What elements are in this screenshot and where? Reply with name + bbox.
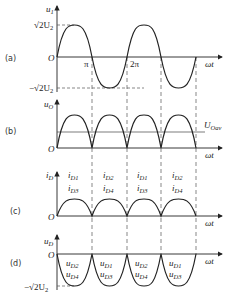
trough-label-d: −√2U2 <box>24 282 48 293</box>
y-axis-label-d: uD <box>44 236 54 247</box>
panel-c-diode-current: (c) iD O ωt iD1 iD3 iD2 iD4 iD1 iD3 iD2 … <box>10 170 222 228</box>
svg-text:uD3: uD3 <box>169 269 182 280</box>
svg-text:iD4: iD4 <box>103 183 114 194</box>
dashed-guide-lines <box>92 57 196 254</box>
panel-d-diode-voltage: (d) uD O −√2U2 ωt uD2 uD4 uD1 uD3 uD2 uD… <box>10 235 222 293</box>
svg-text:uD2: uD2 <box>66 258 79 269</box>
bridge-rectifier-waveforms: (a) u1 √2U2 −√2U2 O π 2π ωt (b) uO O UOa… <box>0 0 226 303</box>
svg-text:uD2: uD2 <box>135 258 148 269</box>
y-axis-label-b: uO <box>44 99 54 110</box>
peak-label-a: √2U2 <box>34 20 53 31</box>
tick-pi: π <box>84 59 89 69</box>
diode-voltage-wave <box>57 254 196 286</box>
svg-text:uD1: uD1 <box>100 258 112 269</box>
svg-text:iD1: iD1 <box>68 170 78 181</box>
average-label: UOav <box>204 120 221 131</box>
svg-text:uD3: uD3 <box>100 269 113 280</box>
svg-text:iD2: iD2 <box>103 170 114 181</box>
x-axis-label-c: ωt <box>205 218 214 228</box>
sine-wave <box>57 25 196 88</box>
x-axis-label-a: ωt <box>205 59 214 69</box>
svg-text:uD4: uD4 <box>135 269 148 280</box>
origin-label-c: O <box>48 212 55 222</box>
svg-text:iD2: iD2 <box>172 170 183 181</box>
tick-2pi: 2π <box>130 59 140 69</box>
panel-label-c: (c) <box>10 207 21 216</box>
current-wave <box>57 199 196 216</box>
trough-label-a: −√2U2 <box>29 83 53 94</box>
panel-label-b: (b) <box>5 127 16 136</box>
rectified-wave <box>57 115 196 148</box>
panel-label-d: (d) <box>10 259 21 268</box>
origin-label-b: O <box>48 144 55 154</box>
origin-label-a: O <box>48 53 55 63</box>
svg-text:iD3: iD3 <box>68 183 79 194</box>
svg-text:uD4: uD4 <box>66 269 79 280</box>
panel-a-input-voltage: (a) u1 √2U2 −√2U2 O π 2π ωt <box>5 4 222 94</box>
panel-b-output-voltage: (b) uO O UOav ωt <box>5 99 222 160</box>
origin-label-d: O <box>48 250 55 260</box>
x-axis-label-b: ωt <box>205 150 214 160</box>
x-axis-label-d: ωt <box>205 256 214 266</box>
svg-text:iD3: iD3 <box>137 183 148 194</box>
panel-label-a: (a) <box>5 54 16 63</box>
svg-text:uD1: uD1 <box>169 258 181 269</box>
y-axis-label-a: u1 <box>46 4 54 15</box>
segment-labels-c: iD1 iD3 iD2 iD4 iD1 iD3 iD2 iD4 <box>68 170 183 194</box>
y-axis-label-c: iD <box>46 170 54 181</box>
svg-text:iD4: iD4 <box>172 183 183 194</box>
svg-text:iD1: iD1 <box>137 170 147 181</box>
